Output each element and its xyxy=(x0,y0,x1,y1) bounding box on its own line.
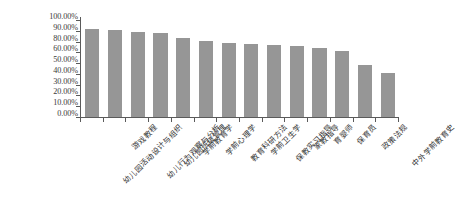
bar xyxy=(381,73,395,117)
y-axis-tick-mark xyxy=(76,106,80,107)
bar xyxy=(153,33,167,117)
y-axis-tick-mark xyxy=(76,95,80,96)
x-axis-category-labels: 幼儿园活动设计与组织游戏教程幼儿行为观察与分析幼儿园班级管理学前教育学学前心理学… xyxy=(81,122,399,217)
bar xyxy=(290,46,304,117)
bar-slot xyxy=(285,17,308,117)
y-axis-tick-mark xyxy=(76,85,80,86)
y-axis-tick-mark xyxy=(76,52,80,53)
bar-slot xyxy=(149,17,172,117)
bar-slot xyxy=(81,17,104,117)
bar-slot xyxy=(331,17,354,117)
bar xyxy=(267,45,281,117)
y-axis-tick-mark xyxy=(76,74,80,75)
bar-slot xyxy=(172,17,195,117)
bar xyxy=(85,29,99,117)
x-axis-category-label: 中外学前教育史 xyxy=(411,123,456,168)
bar-slot xyxy=(376,17,399,117)
y-axis-tick-mark xyxy=(76,42,80,43)
y-axis-tick-mark xyxy=(76,31,80,32)
bar-slot xyxy=(308,17,331,117)
y-axis-tick-label: 100.00% xyxy=(49,13,78,21)
bar xyxy=(335,51,349,117)
y-axis-tick-marks xyxy=(75,17,80,117)
x-axis-category-label: 政策法规 xyxy=(381,123,409,151)
bar xyxy=(176,38,190,117)
bar-slot xyxy=(195,17,218,117)
bar-slot xyxy=(354,17,377,117)
bar-slot xyxy=(263,17,286,117)
bar xyxy=(131,32,145,117)
bar-slot xyxy=(217,17,240,117)
bar-slot xyxy=(240,17,263,117)
x-axis-category-label: 保育员 xyxy=(356,123,378,145)
bar-slot xyxy=(126,17,149,117)
plot-area xyxy=(81,17,399,117)
bar xyxy=(222,43,236,117)
y-axis-tick-mark xyxy=(76,20,80,21)
bar xyxy=(199,41,213,117)
y-axis-tick-labels: 100.00%90.00%80.00%60.00%50.00%40.00%30.… xyxy=(28,14,78,118)
bar xyxy=(244,44,258,117)
bar xyxy=(108,30,122,117)
bar-slot xyxy=(104,17,127,117)
y-axis-tick-mark xyxy=(76,63,80,64)
bar xyxy=(312,48,326,117)
bar xyxy=(358,65,372,117)
